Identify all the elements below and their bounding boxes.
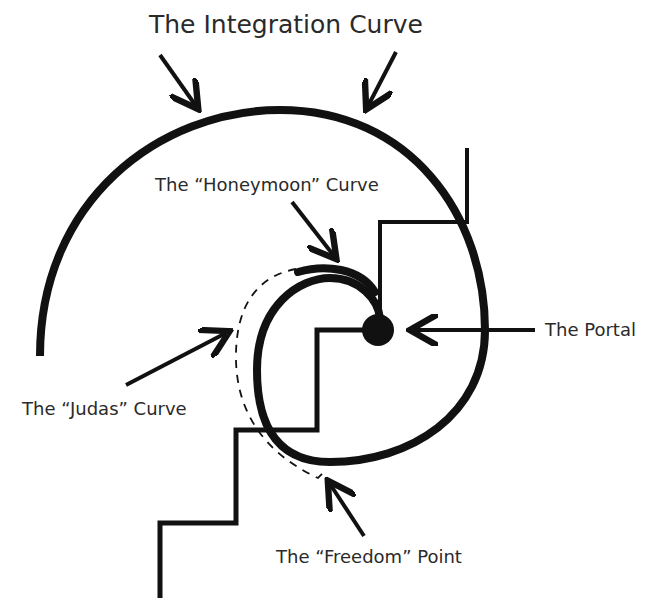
- arrow-integration-left: [160, 55, 196, 106]
- integration-curve-diagram: The Integration Curve The “Honeymoon” Cu…: [0, 0, 663, 614]
- arrow-judas: [126, 333, 226, 385]
- arrow-integration-right: [368, 52, 396, 106]
- portal-dot: [362, 314, 394, 346]
- arrow-honeymoon: [292, 202, 334, 256]
- arrow-freedom: [330, 484, 364, 536]
- staircase: [160, 148, 467, 598]
- diagram-graphic: [0, 0, 663, 614]
- label-freedom-point: The “Freedom” Point: [276, 548, 462, 566]
- diagram-title: The Integration Curve: [149, 12, 423, 37]
- label-portal: The Portal: [545, 321, 636, 339]
- label-honeymoon-curve: The “Honeymoon” Curve: [155, 176, 379, 194]
- label-judas-curve: The “Judas” Curve: [22, 400, 187, 418]
